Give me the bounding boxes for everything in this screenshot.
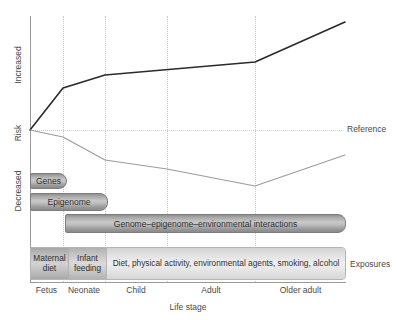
bar-genome-epigenome-environmental-interactions: Genome–epigenome–environmental interacti… <box>65 214 346 233</box>
increased-risk-line <box>30 22 345 130</box>
x-axis-title: Life stage <box>30 302 346 312</box>
exposure-segment-infant-feeding: Infant feeding <box>69 248 107 279</box>
bar-genes-label: Genes <box>36 176 61 186</box>
exposure-maternal-diet-label: Maternal diet <box>32 254 67 273</box>
bar-interactions-label: Genome–epigenome–environmental interacti… <box>114 219 297 229</box>
bar-exposures: Maternal diet Infant feeding Diet, physi… <box>30 247 346 280</box>
exposure-segment-adult-lifestyle: Diet, physical activity, environmental a… <box>107 248 345 279</box>
bar-epigenome: Epigenome <box>30 193 108 211</box>
bar-genes: Genes <box>30 173 67 189</box>
life-course-risk-figure: Increased Risk Decreased Reference Genes… <box>0 0 397 320</box>
x-tick-label-adult: Adult <box>176 285 246 295</box>
exposures-annotation: Exposures <box>350 259 390 269</box>
exposure-segment-maternal-diet: Maternal diet <box>31 248 69 279</box>
x-tick-label-older-adult: Older adult <box>266 285 336 295</box>
decreased-risk-line <box>30 130 345 186</box>
exposure-adult-lifestyle-label: Diet, physical activity, environmental a… <box>113 259 340 268</box>
bar-epigenome-label: Epigenome <box>47 197 90 207</box>
reference-annotation: Reference <box>347 124 386 134</box>
exposure-infant-feeding-label: Infant feeding <box>70 254 105 273</box>
x-tick-label-child: Child <box>101 285 171 295</box>
